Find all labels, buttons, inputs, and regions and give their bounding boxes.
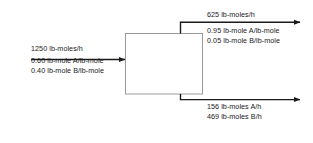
top-product-flow-rate-label: 625 lb-moles/h [207, 10, 255, 20]
top-product-composition-group: 0.95 lb-mole A/lb-mole 0.05 lb-mole B/lb… [207, 26, 280, 45]
top-product-composition-b-label: 0.05 lb-mole B/lb-mole [207, 36, 280, 46]
bottom-product-labels: 156 lb-moles A/h 469 lb-moles B/h [207, 102, 262, 121]
feed-composition-b-label: 0.40 lb-mole B/lb-mole [31, 66, 104, 76]
bottom-product-stream-line [181, 94, 301, 100]
bottom-product-component-b-label: 469 lb-moles B/h [207, 112, 262, 122]
process-unit-box [126, 34, 203, 95]
flow-diagram: 1250 lb-moles/h 0.60 lb-mole A/lb-mole 0… [0, 0, 313, 143]
feed-flow-rate-label: 1250 lb-moles/h [31, 44, 104, 54]
bottom-product-component-a-label: 156 lb-moles A/h [207, 102, 262, 112]
top-product-composition-a-label: 0.95 lb-mole A/lb-mole [207, 26, 280, 36]
feed-composition-a-label: 0.60 lb-mole A/lb-mole [31, 56, 104, 66]
feed-stream-labels: 1250 lb-moles/h 0.60 lb-mole A/lb-mole 0… [31, 44, 104, 75]
top-product-rate-group: 625 lb-moles/h [207, 10, 255, 20]
